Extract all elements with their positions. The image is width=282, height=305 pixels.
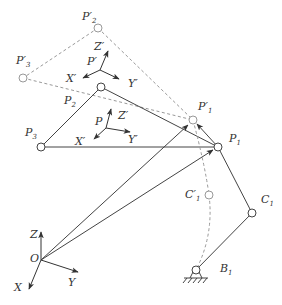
axis-zpp-arrow	[100, 51, 108, 70]
label-zp-a: Z′	[117, 109, 129, 122]
label-b1: B1	[219, 262, 233, 277]
label-p-prime: P′	[86, 55, 97, 68]
vector-o-p1p	[41, 125, 188, 260]
axis-xp-arrow	[94, 128, 106, 139]
label-p2: P2	[63, 94, 76, 109]
label-p2-prime: P′2	[81, 10, 97, 25]
label-yp-a: Y′	[128, 133, 138, 146]
label-c1: C1	[261, 193, 274, 208]
label-c1-prime: C′1	[185, 188, 200, 203]
axis-ypp-arrow	[100, 70, 119, 79]
leg-1	[196, 147, 252, 270]
label-zp-b: Z′	[93, 40, 105, 53]
joint-p3	[37, 143, 45, 151]
joint-p1-prime	[189, 116, 197, 124]
joint-c1	[248, 209, 256, 217]
ground-hatch-icon	[183, 278, 207, 283]
label-z: Z	[29, 228, 38, 241]
link-c1-p1	[218, 147, 252, 213]
label-p3: P3	[24, 126, 37, 141]
joint-b1	[192, 266, 200, 274]
label-x: X	[13, 281, 23, 294]
label-o: O	[30, 252, 39, 265]
joint-p2-prime	[94, 24, 102, 32]
label-y: Y	[68, 276, 77, 289]
label-p3-prime: P′3	[15, 54, 31, 69]
label-p1: P1	[228, 132, 241, 147]
joint-p3-prime	[19, 74, 27, 82]
axis-yp-arrow	[106, 128, 130, 132]
joint-p1	[214, 143, 222, 151]
edge-p2p-p1p	[98, 28, 193, 120]
ground-pivot-b1	[183, 266, 208, 283]
joint-p2	[97, 83, 105, 91]
vector-o-p1	[41, 150, 213, 260]
axis-xpp-arrow	[83, 70, 100, 78]
label-p: P	[94, 115, 103, 128]
label-yp-b: Y′	[128, 77, 138, 90]
edge-p2p-p3p	[23, 28, 98, 78]
axis-zp-arrow	[106, 109, 111, 128]
label-xp-a: X′	[74, 135, 86, 148]
vector-p1-p1p	[197, 124, 218, 147]
joint-c1-prime	[205, 191, 213, 199]
mechanism-diagram: P′2 P′3 P′1 P2 P3 P1 C′1 C1 B1 O Z Y X P…	[0, 0, 282, 305]
label-xp-b: X′	[65, 72, 77, 85]
label-p1-prime: P′1	[197, 100, 212, 115]
edge-p3p-p1p	[23, 78, 193, 120]
axis-y-arrow	[41, 260, 78, 272]
